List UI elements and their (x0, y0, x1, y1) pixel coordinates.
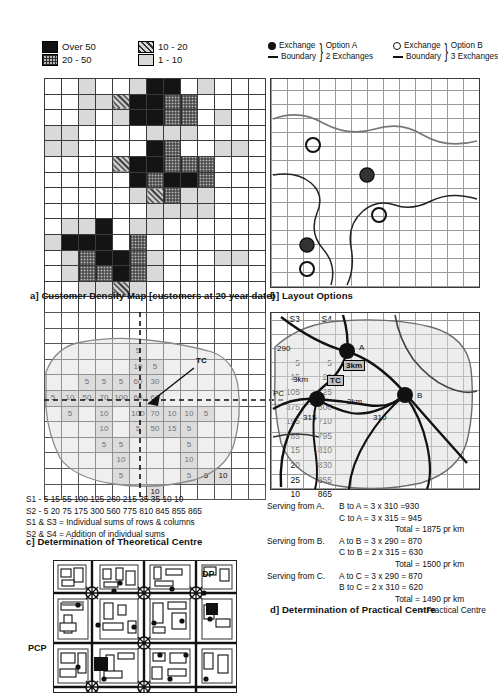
density-cell (181, 125, 198, 141)
value-cell (130, 437, 147, 453)
density-cell (232, 94, 249, 110)
value-cell (215, 437, 232, 453)
value-cell (147, 468, 164, 484)
value-cell (45, 453, 62, 469)
density-cell (79, 203, 96, 219)
panel-b-caption: b] Layout Options (270, 290, 470, 301)
density-cell (181, 266, 198, 282)
node-a (339, 343, 355, 359)
density-cell (79, 141, 96, 157)
site-plan-drawing (54, 561, 236, 692)
value-cell (249, 390, 266, 406)
density-cell (45, 141, 62, 157)
value-cell (215, 422, 232, 438)
value-cell: 5 (113, 468, 130, 484)
density-cell (130, 156, 147, 172)
legend-option-b-detail: 3 Exchanges (451, 51, 498, 62)
density-row (45, 79, 266, 95)
density-cell (79, 250, 96, 266)
value-cell: 5 (181, 422, 198, 438)
density-cell (62, 203, 79, 219)
density-cell (147, 141, 164, 157)
density-cell (62, 141, 79, 157)
value-cell (249, 468, 266, 484)
swatch-10-20-icon (138, 41, 154, 53)
calc-c-line1: A to C = 3 x 290 = 870 (339, 571, 422, 583)
value-cell (164, 313, 181, 329)
boundary-line-grey (273, 115, 477, 144)
theoretical-centre-table: 5105555603051050701006060510100701010510… (44, 312, 266, 500)
value-cell (45, 344, 62, 360)
density-cell (147, 156, 164, 172)
value-cell (45, 422, 62, 438)
density-row (45, 203, 266, 219)
value-cell (198, 375, 215, 391)
value-cell (249, 359, 266, 375)
value-cell: 10 (130, 359, 147, 375)
value-cell (249, 375, 266, 391)
density-cell (62, 172, 79, 188)
density-cell (215, 141, 232, 157)
density-cell (181, 141, 198, 157)
density-cell (232, 79, 249, 95)
value-cell (62, 468, 79, 484)
layout-options-overlay (271, 79, 479, 287)
value-cell (45, 437, 62, 453)
density-cell (147, 110, 164, 126)
legend-option-b: Exchange Boundary } Option B 3 Exchanges (393, 40, 498, 62)
value-cell (232, 437, 249, 453)
density-cell (164, 234, 181, 250)
value-cell (232, 375, 249, 391)
value-cell: 10 (96, 406, 113, 422)
density-cell (181, 203, 198, 219)
swatch-20-50-icon (42, 54, 58, 66)
density-cell (62, 250, 79, 266)
density-cell (79, 188, 96, 204)
density-cell (113, 125, 130, 141)
legend-label-10-20: 10 - 20 (158, 41, 188, 52)
value-cell (215, 453, 232, 469)
value-cell (181, 328, 198, 344)
value-cell: 100 (113, 390, 130, 406)
density-cell (198, 94, 215, 110)
density-cell (147, 125, 164, 141)
value-cell (181, 344, 198, 360)
density-cell (198, 141, 215, 157)
density-cell (79, 156, 96, 172)
value-cell (62, 359, 79, 375)
value-cell: 5 (96, 437, 113, 453)
density-cell (147, 172, 164, 188)
density-cell (113, 141, 130, 157)
practical-centre-map: 290 A 3km 3km TC PC C 2km B 315 310 (270, 312, 480, 490)
density-cell (45, 250, 62, 266)
value-cell (164, 390, 181, 406)
value-cell (232, 313, 249, 329)
density-cell (181, 219, 198, 235)
density-cell (96, 266, 113, 282)
density-cell (96, 203, 113, 219)
density-cell (96, 172, 113, 188)
value-cell: 5 (181, 468, 198, 484)
density-cell (79, 94, 96, 110)
density-row (45, 188, 266, 204)
legend-item-over-50: Over 50 (42, 41, 138, 53)
value-cell (79, 313, 96, 329)
value-cell (249, 344, 266, 360)
legend-label-20-50: 20 - 50 (62, 54, 92, 65)
value-cell (198, 328, 215, 344)
value-row: 5101007010105 (45, 406, 266, 422)
density-cell (113, 110, 130, 126)
value-cell (232, 359, 249, 375)
density-cell (215, 125, 232, 141)
value-cell (79, 437, 96, 453)
value-cell (198, 437, 215, 453)
density-cell (96, 125, 113, 141)
density-cell (147, 266, 164, 282)
density-cell (198, 110, 215, 126)
value-cell (113, 406, 130, 422)
density-cell (164, 250, 181, 266)
exchange-filled-1 (360, 168, 374, 182)
density-cell (215, 94, 232, 110)
filled-exchange-icon (268, 42, 276, 50)
boundary-line-b (347, 195, 477, 285)
